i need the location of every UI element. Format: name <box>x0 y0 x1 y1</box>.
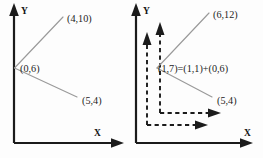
right-x-axis-label: X <box>244 128 251 138</box>
figure-canvas: Y X (0,6) (4,10) (5,4) <box>0 0 263 158</box>
right-equation-label: (1,7)=(1,1)+(0,6) <box>158 63 228 75</box>
inner-dashed-vertical-arrowhead <box>156 22 165 35</box>
left-upper-vector-label: (4,10) <box>67 13 92 25</box>
left-panel: Y X (0,6) (4,10) (5,4) <box>9 3 124 148</box>
left-origin-point-label: (0,6) <box>20 63 40 75</box>
left-y-axis-arrowhead <box>9 3 19 16</box>
outer-dashed-vertical-arrowhead <box>143 32 152 45</box>
right-upper-vector-line <box>157 13 209 68</box>
right-y-axis <box>131 3 141 143</box>
left-y-axis <box>9 3 19 143</box>
right-x-axis-arrowhead <box>240 138 253 148</box>
right-panel: Y X (1,7)=(1,1)+(0,6) (6,12) (5,4) <box>131 3 253 148</box>
right-lower-vector-label: (5,4) <box>217 95 237 107</box>
inner-dashed-horizontal-arrowhead <box>208 109 221 118</box>
left-x-axis-label: X <box>94 128 101 138</box>
outer-dashed-horizontal-arrowhead <box>195 121 208 130</box>
left-upper-vector-line <box>15 17 64 68</box>
right-y-axis-label: Y <box>143 6 150 16</box>
outer-dashed-translation-path <box>143 32 209 130</box>
left-x-axis <box>14 138 124 148</box>
left-lower-vector-label: (5,4) <box>82 95 102 107</box>
right-upper-vector-label: (6,12) <box>213 9 238 21</box>
left-y-axis-label: Y <box>21 6 28 16</box>
right-x-axis <box>136 138 253 148</box>
vector-addition-figure: Y X (0,6) (4,10) (5,4) <box>0 0 263 158</box>
left-x-axis-arrowhead <box>111 138 124 148</box>
right-y-axis-arrowhead <box>131 3 141 16</box>
